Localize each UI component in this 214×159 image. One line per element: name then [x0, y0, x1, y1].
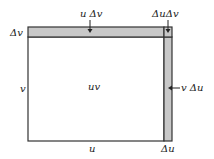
- label-uv: uv: [88, 82, 100, 92]
- label-v-delta-u: v Δu: [181, 83, 204, 93]
- top-strip: [28, 27, 164, 37]
- label-delta-v: Δv: [10, 28, 23, 38]
- label-u-delta-v: u Δv: [80, 9, 103, 19]
- label-delta-u-delta-v: ΔuΔv: [152, 9, 179, 19]
- label-v: v: [20, 84, 26, 94]
- label-delta-u: Δu: [161, 144, 175, 154]
- label-u: u: [89, 144, 95, 154]
- area-product-diagram: [0, 0, 214, 159]
